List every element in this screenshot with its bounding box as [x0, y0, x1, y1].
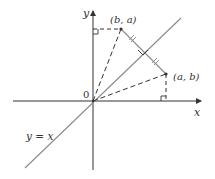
right-angle-marker-y-axis	[93, 29, 98, 34]
x-axis-label: x	[194, 106, 201, 119]
point-ba	[119, 27, 122, 30]
line-label: y = x	[25, 130, 53, 142]
dashed-origin-to-ab	[93, 74, 166, 101]
reflection-segment	[121, 29, 166, 74]
point-ba-label: (b, a)	[110, 14, 137, 25]
dashed-origin-to-ba	[93, 29, 121, 101]
reflection-diagram: y x 0 (b, a) (a, b) y = x	[0, 0, 215, 179]
origin-point	[92, 100, 94, 102]
point-ab	[164, 72, 167, 75]
right-angle-marker-x-axis	[161, 96, 166, 101]
y-axis-label: y	[82, 7, 90, 20]
line-y-equals-x	[25, 18, 181, 168]
point-ab-label: (a, b)	[173, 71, 200, 82]
equal-length-ticks	[129, 35, 159, 65]
origin-label: 0	[83, 89, 89, 100]
